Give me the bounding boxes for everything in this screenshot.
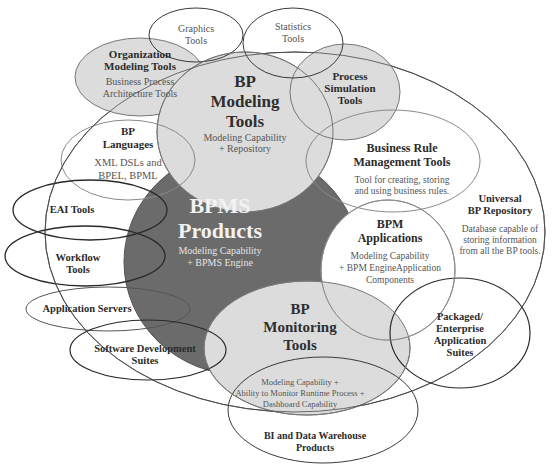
svg-text:Database capable of: Database capable of xyxy=(462,224,539,234)
svg-text:Management Tools: Management Tools xyxy=(353,155,450,169)
svg-text:Tools: Tools xyxy=(338,94,363,106)
svg-text:Architecture Tools: Architecture Tools xyxy=(103,88,177,99)
svg-text:Graphics: Graphics xyxy=(178,23,214,34)
svg-text:+ BPMS Engine: + BPMS Engine xyxy=(187,257,253,268)
svg-text:Application: Application xyxy=(434,335,487,346)
application-servers-label: Application Servers xyxy=(43,303,132,314)
svg-text:Process: Process xyxy=(332,70,368,82)
svg-text:BP: BP xyxy=(121,125,135,137)
svg-text:Organization: Organization xyxy=(109,48,171,60)
svg-text:Languages: Languages xyxy=(103,138,154,150)
bp-languages-label: BP Languages XML DSLs and BPEL, BPML xyxy=(94,125,162,181)
svg-text:+ BPM EngineApplication: + BPM EngineApplication xyxy=(339,263,441,273)
svg-text:EAI Tools: EAI Tools xyxy=(50,204,95,215)
statistics-tools-label: Statistics Tools xyxy=(275,21,311,44)
svg-text:Software Development: Software Development xyxy=(94,343,196,354)
svg-text:Components: Components xyxy=(366,275,414,285)
svg-text:Modeling Capability +: Modeling Capability + xyxy=(261,377,339,387)
svg-text:Application Servers: Application Servers xyxy=(43,303,132,314)
svg-text:Tool for creating, storing: Tool for creating, storing xyxy=(355,175,450,185)
svg-text:Modeling Tools: Modeling Tools xyxy=(104,60,177,72)
svg-text:Tools: Tools xyxy=(282,33,304,44)
svg-text:Modeling Capability: Modeling Capability xyxy=(203,132,286,143)
svg-text:BPM: BPM xyxy=(377,217,404,231)
svg-text:Monitoring: Monitoring xyxy=(263,319,337,335)
svg-text:Products: Products xyxy=(296,442,334,453)
svg-text:Suites: Suites xyxy=(132,355,159,366)
svg-text:Universal: Universal xyxy=(478,193,521,204)
svg-text:and using business rules.: and using business rules. xyxy=(355,186,449,196)
svg-text:Statistics: Statistics xyxy=(275,21,311,32)
graphics-tools-label: Graphics Tools xyxy=(178,23,214,46)
business-rule-label: Business Rule Management Tools Tool for … xyxy=(353,141,450,196)
svg-text:BPMS: BPMS xyxy=(189,193,250,218)
svg-text:Tools: Tools xyxy=(66,264,90,275)
bpms-venn-diagram: Graphics Tools Statistics Tools Organiza… xyxy=(0,0,558,467)
svg-text:BP: BP xyxy=(290,301,309,317)
svg-text:XML DSLs and: XML DSLs and xyxy=(94,157,162,168)
svg-text:Packaged/: Packaged/ xyxy=(437,311,484,322)
svg-text:Applications: Applications xyxy=(358,231,423,245)
svg-text:Ability to Monitor Runtime Pro: Ability to Monitor Runtime Process + xyxy=(235,388,364,398)
svg-text:Tools: Tools xyxy=(226,112,265,131)
svg-text:Modeling: Modeling xyxy=(211,92,280,111)
svg-text:Workflow: Workflow xyxy=(56,252,101,263)
svg-text:Business Rule: Business Rule xyxy=(366,141,438,155)
svg-text:Suites: Suites xyxy=(447,347,474,358)
svg-text:Products: Products xyxy=(178,218,262,243)
svg-text:Modeling Capability: Modeling Capability xyxy=(351,251,430,261)
svg-text:storing information: storing information xyxy=(463,235,537,245)
svg-text:Dashboard Capability: Dashboard Capability xyxy=(263,399,338,409)
svg-text:Tools: Tools xyxy=(283,337,317,353)
svg-text:Modeling Capability: Modeling Capability xyxy=(178,245,261,256)
svg-text:BPEL, BPML: BPEL, BPML xyxy=(98,170,158,181)
universal-repository-label: Universal BP Repository Database capable… xyxy=(459,193,540,256)
packaged-suites-label: Packaged/ Enterprise Application Suites xyxy=(434,311,487,358)
svg-text:+ Repository: + Repository xyxy=(219,143,271,154)
svg-text:Enterprise: Enterprise xyxy=(436,323,484,334)
eai-tools-label: EAI Tools xyxy=(50,204,95,215)
svg-text:BP: BP xyxy=(234,72,256,91)
bpms-products-label: BPMS Products Modeling Capability + BPMS… xyxy=(178,193,262,268)
svg-text:Business Process: Business Process xyxy=(106,76,175,87)
svg-text:Tools: Tools xyxy=(185,35,207,46)
svg-text:Simulation: Simulation xyxy=(324,82,375,94)
svg-text:from all the BP tools.: from all the BP tools. xyxy=(459,246,540,256)
workflow-tools-label: Workflow Tools xyxy=(56,252,101,275)
bi-data-warehouse-label: BI and Data Warehouse Products xyxy=(264,430,367,453)
svg-text:BP Repository: BP Repository xyxy=(468,205,533,216)
svg-text:BI and Data Warehouse: BI and Data Warehouse xyxy=(264,430,367,441)
